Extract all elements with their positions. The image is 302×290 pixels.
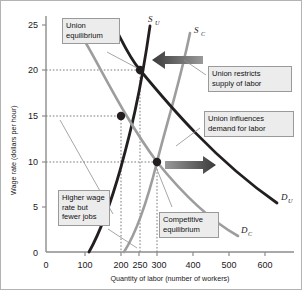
ytick-0: 0	[33, 248, 38, 258]
callout-higher-wage-fewer-jobs: Higher wage rate but fewer jobs	[58, 190, 110, 226]
svg-text:S: S	[194, 25, 199, 35]
xtick-600: 600	[257, 260, 272, 270]
xtick-100: 100	[77, 260, 92, 270]
xtick-200: 200	[113, 260, 128, 270]
xtick-500: 500	[221, 260, 236, 270]
svg-text:U: U	[155, 19, 160, 26]
ytick-20: 20	[28, 65, 38, 75]
xtick-250: 250	[132, 260, 147, 270]
svg-text:D: D	[280, 192, 288, 202]
xtick-300: 300	[151, 260, 166, 270]
point-higher-wage-fewer-jobs	[117, 112, 125, 120]
svg-text:U: U	[288, 197, 293, 204]
xtick-400: 400	[185, 260, 200, 270]
svg-text:S: S	[148, 14, 153, 24]
callout-union-influences-demand: Union influences demand for labor	[204, 111, 294, 137]
ytick-25: 25	[28, 20, 38, 30]
ytick-5: 5	[33, 202, 38, 212]
union-labor-market-chart: 25 20 15 10 5 0 0 100 200 250 300 400 50…	[0, 0, 302, 290]
point-competitive-equilibrium	[153, 158, 161, 166]
callout-union-equilibrium: Union equilibrium	[62, 18, 120, 44]
callout-competitive-equilibrium: Competitive equilibrium	[159, 212, 219, 238]
chart-figure: 25 20 15 10 5 0 0 100 200 250 300 400 50…	[0, 0, 302, 290]
y-axis-title: Wage rate (dollars per hour)	[9, 105, 18, 195]
xtick-0: 0	[43, 260, 48, 270]
callout-union-restricts-supply: Union restricts supply of labor	[208, 66, 292, 92]
ytick-15: 15	[28, 111, 38, 121]
svg-text:D: D	[240, 225, 248, 235]
ytick-10: 10	[28, 157, 38, 167]
x-axis-title: Quantity of labor (number of workers)	[110, 274, 229, 283]
point-union-equilibrium	[136, 66, 144, 74]
